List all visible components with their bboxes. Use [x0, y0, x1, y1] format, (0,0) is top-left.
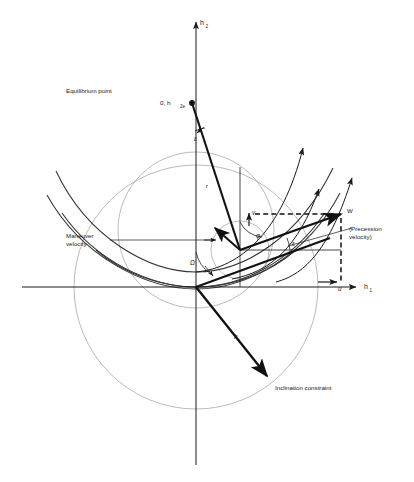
w-vector-label: W — [347, 207, 353, 214]
figure-container: h 1 h 2 ε r W v u ε φ v Ω h i — [0, 0, 414, 482]
omega-angle-label: Ω — [190, 259, 195, 266]
h-vector-label: h — [234, 333, 238, 340]
r-vector-label: r — [206, 182, 208, 189]
precession-velocity-line-2: velocity) — [349, 233, 372, 240]
angular-momentum-diagram-svg: h 1 h 2 ε r W v u ε φ v Ω h i — [0, 0, 414, 482]
epsilon-top-label: ε — [194, 135, 197, 142]
equilibrium-coords-subscript: 2e — [180, 104, 186, 109]
h2-label-subscript: 2 — [206, 24, 209, 29]
precession-velocity-line-1: (Precession — [349, 225, 382, 232]
equilibrium-coords-text: 0, h — [160, 99, 171, 106]
u-component-label: u — [338, 285, 342, 292]
maneuver-velocity-line-2: velocity — [66, 240, 88, 247]
canvas-background — [0, 0, 414, 482]
h2-label-text: h — [200, 19, 204, 26]
equilibrium-point-label: Equilibrium point — [66, 87, 112, 94]
inclination-constraint-label: Inclination constraint — [275, 384, 332, 391]
epsilon-angle-label: ε — [292, 240, 295, 247]
h1-label-subscript: 1 — [370, 288, 373, 293]
h-vector-subscript: i — [239, 338, 240, 343]
phi-angle-label: φ — [256, 232, 260, 240]
h1-label-text: h — [364, 283, 368, 290]
maneuver-velocity-line-1: Maneuver — [66, 232, 94, 239]
